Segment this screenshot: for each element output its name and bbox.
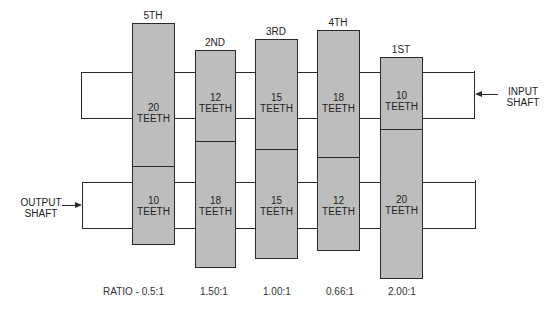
gear-divider [381,129,422,130]
bottom-shaft-left-end [82,182,83,229]
gear-label-5th: 5TH [123,10,183,21]
gear-1st-top-teeth: 10 TEETH [381,90,422,112]
input-shaft-label: INPUT SHAFT [498,86,548,108]
ratio-4th: 0.66:1 [326,286,354,297]
teeth-count: 18 [196,195,235,206]
ratio-2nd: 1.50:1 [200,286,228,297]
teeth-count: 20 [133,102,174,113]
input-shaft-label-line1: INPUT [498,86,548,97]
teeth-word: TEETH [318,103,359,114]
teeth-count: 12 [196,92,235,103]
output-shaft-label-line1: OUTPUT [18,197,64,208]
gear-2nd-top-teeth: 12 TEETH [196,92,235,114]
teeth-count: 15 [256,195,297,206]
gear-2nd-bottom-teeth: 18 TEETH [196,195,235,217]
gear-pair-4th: 18 TEETH 12 TEETH [317,30,360,251]
teeth-word: TEETH [381,101,422,112]
teeth-word: TEETH [256,206,297,217]
teeth-count: 15 [256,92,297,103]
input-shaft-label-line2: SHAFT [498,97,548,108]
teeth-word: TEETH [256,103,297,114]
teeth-count: 18 [318,92,359,103]
teeth-word: TEETH [381,205,422,216]
gear-label-3rd: 3RD [246,26,306,37]
teeth-count: 10 [381,90,422,101]
teeth-word: TEETH [133,113,174,124]
gear-pair-3rd: 15 TEETH 15 TEETH [255,39,298,259]
gear-pair-2nd: 12 TEETH 18 TEETH [195,50,236,268]
gear-divider [318,157,359,158]
gear-divider [133,166,174,167]
gear-5th-top-teeth: 20 TEETH [133,102,174,124]
teeth-word: TEETH [196,103,235,114]
teeth-count: 20 [381,194,422,205]
gear-divider [196,141,235,142]
teeth-word: TEETH [318,206,359,217]
top-shaft-left-end [81,72,82,119]
gear-label-2nd: 2ND [185,37,245,48]
output-shaft-label: OUTPUT SHAFT [18,197,64,219]
gear-3rd-bottom-teeth: 15 TEETH [256,195,297,217]
gear-1st-bottom-teeth: 20 TEETH [381,194,422,216]
gear-3rd-top-teeth: 15 TEETH [256,92,297,114]
ratio-1st: 2.00:1 [388,286,416,297]
gear-pair-5th: 20 TEETH 10 TEETH [132,23,175,245]
teeth-word: TEETH [196,206,235,217]
teeth-word: TEETH [133,206,174,217]
bottom-shaft-right-end [475,180,476,229]
gear-label-1st: 1ST [371,44,431,55]
gear-4th-bottom-teeth: 12 TEETH [318,195,359,217]
gear-4th-top-teeth: 18 TEETH [318,92,359,114]
gear-divider [256,149,297,150]
output-shaft-label-line2: SHAFT [18,208,64,219]
gear-5th-bottom-teeth: 10 TEETH [133,195,174,217]
gear-pair-1st: 10 TEETH 20 TEETH [380,57,423,279]
teeth-count: 12 [318,195,359,206]
ratio-5th: RATIO - 0.5:1 [103,286,164,297]
teeth-count: 10 [133,195,174,206]
gear-label-4th: 4TH [308,17,368,28]
ratio-3rd: 1.00:1 [263,286,291,297]
